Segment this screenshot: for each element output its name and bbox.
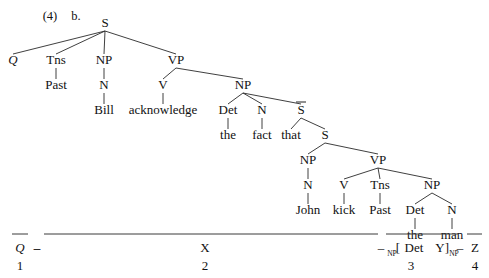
tree-branch xyxy=(176,68,243,79)
np-open-bracket-subscript: NP xyxy=(387,249,397,258)
tree-node-kick: kick xyxy=(333,202,356,217)
branch-line xyxy=(13,31,105,54)
term-symbol: X xyxy=(200,240,210,255)
tree-node-np3: NP xyxy=(300,152,317,167)
tree-node-s0: S xyxy=(101,15,108,30)
tree-branch xyxy=(13,31,105,54)
syntax-tree-svg: (4) b. SQTnsPastNPNBillVPVacknowledgeNPD… xyxy=(0,0,489,278)
tree-node-s1: S xyxy=(321,127,328,142)
tree-node-that: that xyxy=(281,127,301,142)
tree-node-tns2: Tns xyxy=(370,177,390,192)
tree-node-n4: N xyxy=(447,202,457,217)
term-separator-dash: – xyxy=(456,240,464,255)
example-number: (4) xyxy=(43,9,58,23)
term-index: 2 xyxy=(202,258,209,273)
tree-node-bill: Bill xyxy=(94,102,114,117)
structural-analysis-row: –Q1X2–[NPDetY]NP3–Z4– xyxy=(12,234,482,273)
tree-node-v1: V xyxy=(158,77,168,92)
term-index: 3 xyxy=(408,258,415,273)
tree-node-n2: N xyxy=(257,102,267,117)
tree-node-q: Q xyxy=(8,52,18,67)
term-index: 4 xyxy=(472,258,479,273)
tree-node-det2: Det xyxy=(406,202,425,217)
branch-line xyxy=(105,31,176,54)
term-Det: –[NPDetY]NP3 xyxy=(377,234,459,273)
term-X: X2 xyxy=(44,234,378,273)
term-symbol: Q xyxy=(15,240,25,255)
tree-node-fact: fact xyxy=(252,127,272,142)
tree-node-john: John xyxy=(296,202,321,217)
tree-node-past2: Past xyxy=(369,202,391,217)
term-index: 1 xyxy=(17,258,24,273)
tree-node-np2: NP xyxy=(235,77,252,92)
branch-line xyxy=(176,68,243,79)
tree-node-tns1: Tns xyxy=(46,52,66,67)
syntax-tree-figure: (4) b. SQTnsPastNPNBillVPVacknowledgeNPD… xyxy=(0,0,489,278)
term-symbol: Det xyxy=(405,240,424,255)
tree-node-sbar: S xyxy=(297,102,304,117)
branch-line xyxy=(104,31,105,54)
term-symbol-y: Y xyxy=(435,240,445,255)
tree-node-np1: NP xyxy=(96,52,113,67)
tree-nodes: SQTnsPastNPNBillVPVacknowledgeNPDettheNf… xyxy=(8,15,463,242)
term-separator-dash: – xyxy=(33,240,41,255)
tree-node-det1: Det xyxy=(219,102,238,117)
tree-node-v2: V xyxy=(339,177,349,192)
tree-node-vp2: VP xyxy=(370,152,387,167)
tree-node-n1: N xyxy=(99,77,109,92)
branch-line xyxy=(56,31,105,54)
tree-node-n3: N xyxy=(303,177,313,192)
example-sub-label: b. xyxy=(71,9,80,23)
tree-node-np4: NP xyxy=(424,177,441,192)
term-separator-dash: – xyxy=(377,240,385,255)
tree-branch xyxy=(104,31,105,54)
tree-branch xyxy=(105,31,176,54)
term-Z: –Z4 xyxy=(456,234,482,273)
term-symbol: Z xyxy=(471,240,479,255)
tree-node-past1: Past xyxy=(45,77,67,92)
tree-node-the1: the xyxy=(220,127,236,142)
tree-branch xyxy=(56,31,105,54)
tree-node-vp1: VP xyxy=(168,52,185,67)
tree-node-ackn: acknowledge xyxy=(129,102,198,117)
